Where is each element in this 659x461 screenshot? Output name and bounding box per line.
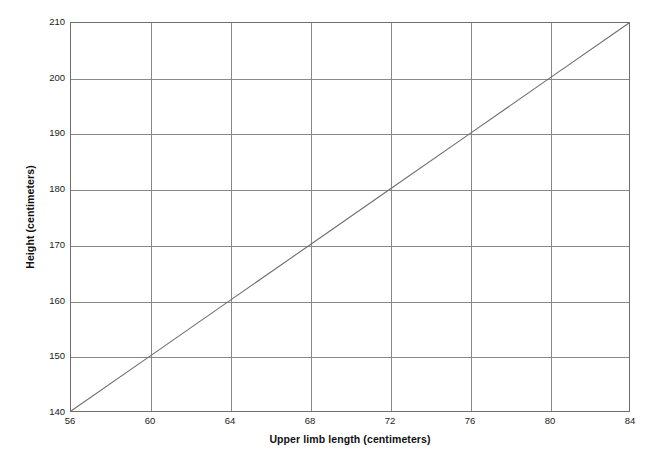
y-tick-label: 170: [49, 240, 65, 250]
line-chart-figure: 140150160170180190200210 566064687276808…: [0, 0, 659, 461]
x-tick-label: 80: [545, 416, 556, 426]
y-tick-label: 180: [49, 184, 65, 194]
x-tick-label: 76: [465, 416, 476, 426]
y-tick-label: 160: [49, 296, 65, 306]
y-axis-tick-labels: 140150160170180190200210: [36, 22, 65, 412]
x-tick-label: 68: [305, 416, 316, 426]
x-tick-label: 60: [145, 416, 156, 426]
plot-area: [70, 22, 630, 412]
x-tick-label: 84: [625, 416, 636, 426]
y-tick-label: 190: [49, 129, 65, 139]
y-axis-title: Height (centimeters): [24, 22, 36, 412]
x-tick-label: 72: [385, 416, 396, 426]
x-axis-tick-labels: 5660646872768084: [70, 416, 630, 430]
x-tick-label: 56: [65, 416, 76, 426]
data-series-layer: [71, 23, 629, 411]
x-axis-title: Upper limb length (centimeters): [70, 433, 630, 445]
y-tick-label: 210: [49, 17, 65, 27]
y-tick-label: 150: [49, 352, 65, 362]
y-tick-label: 140: [49, 407, 65, 417]
data-line: [71, 23, 629, 411]
x-tick-label: 64: [225, 416, 236, 426]
y-tick-label: 200: [49, 73, 65, 83]
